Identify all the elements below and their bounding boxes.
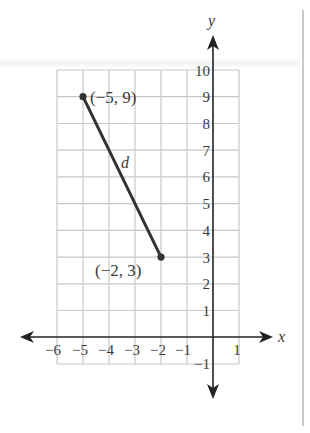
y-axis-label: y — [206, 12, 216, 30]
y-tick: 5 — [203, 196, 211, 212]
x-tick: −4 — [98, 342, 114, 358]
x-tick: −5 — [72, 342, 88, 358]
x-tick: 1 — [233, 342, 241, 358]
segment-label: d — [121, 154, 130, 171]
point-a-label: (−5, 9) — [90, 88, 136, 107]
y-tick: 10 — [195, 63, 210, 79]
point-b-marker — [157, 254, 164, 261]
x-tick-labels: −6 −5 −4 −3 −2 −1 1 — [45, 342, 241, 358]
y-tick: 1 — [203, 303, 211, 319]
point-a-marker — [79, 93, 86, 100]
coordinate-plane: x y −6 −5 −4 −3 −2 −1 1 10 9 8 7 6 5 4 3… — [0, 0, 310, 433]
y-tick: 8 — [203, 116, 211, 132]
y-tick: 6 — [203, 169, 211, 185]
y-tick: 3 — [203, 250, 211, 266]
y-tick: −1 — [194, 356, 210, 372]
y-tick-labels: 10 9 8 7 6 5 4 3 2 1 −1 — [194, 63, 210, 372]
y-tick: 4 — [203, 223, 211, 239]
x-tick: −2 — [150, 342, 166, 358]
x-axis-label: x — [277, 328, 285, 345]
y-tick: 2 — [203, 276, 211, 292]
grid — [57, 70, 239, 364]
y-tick: 9 — [203, 89, 211, 105]
point-b-label: (−2, 3) — [95, 261, 141, 280]
x-tick: −1 — [175, 342, 191, 358]
x-tick: −3 — [124, 342, 140, 358]
x-tick: −6 — [45, 342, 61, 358]
y-tick: 7 — [203, 143, 211, 159]
